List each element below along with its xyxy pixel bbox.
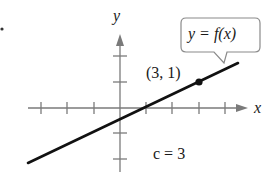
point-marker bbox=[195, 78, 202, 85]
function-line bbox=[28, 63, 238, 163]
y-axis-label: y bbox=[113, 8, 120, 24]
x-axis-arrow-icon bbox=[236, 104, 248, 112]
y-axis-arrow-icon bbox=[116, 34, 124, 46]
parameter-label: c = 3 bbox=[153, 146, 185, 162]
bullet-dot bbox=[0, 27, 3, 30]
point-label: (3, 1) bbox=[146, 65, 181, 81]
callout-text: y = f(x) bbox=[188, 26, 236, 42]
x-axis-label: x bbox=[254, 100, 261, 116]
function-graph-figure: y x y = f(x) (3, 1) c = 3 bbox=[0, 0, 271, 180]
